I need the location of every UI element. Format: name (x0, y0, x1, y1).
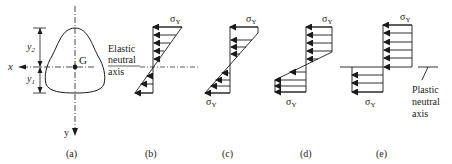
stress-label-b-top: σY (170, 13, 180, 26)
plastic-na-leader (422, 67, 428, 80)
dim-arrow-up2-icon (38, 67, 43, 73)
centroid-dot (73, 65, 78, 70)
plastic-na-line3: axis (412, 108, 428, 119)
caption-d: (d) (300, 148, 312, 160)
panel-b-elastic-stress (135, 27, 198, 93)
stress-label-c-bottom: σY (206, 96, 216, 109)
y-axis-label: y (64, 127, 69, 138)
x-axis-arrow-icon (18, 65, 26, 70)
plastic-na-line1: Plastic (412, 84, 439, 95)
panel-d-elastic-plastic (275, 27, 352, 92)
stress-distribution-figure: y x G y2 y1 Elastic neutral axis (a) (0, 0, 452, 164)
plastic-na-line2: neutral (412, 96, 440, 107)
stress-label-d-top: σY (322, 13, 332, 26)
dim-lower-label: y1 (26, 73, 35, 86)
panel-c-first-yield (205, 27, 258, 93)
dim-upper-label: y2 (26, 41, 35, 54)
centroid-label: G (79, 54, 87, 66)
elastic-na-line3: axis (108, 66, 124, 77)
dim-arrow-down-icon (38, 61, 43, 67)
caption-b: (b) (145, 148, 157, 160)
panel-e-fully-plastic (352, 25, 438, 92)
stress-label-c-top: σY (246, 13, 256, 26)
stress-profile (135, 27, 182, 93)
caption-c: (c) (222, 148, 233, 160)
stress-profile (275, 52, 332, 80)
panel-a-cross-section: y x G y2 y1 Elastic neutral axis (a) (7, 6, 140, 160)
stress-label-e-top: σY (400, 11, 410, 24)
stress-label-e-bottom: σY (365, 96, 375, 109)
dim-arrow-up-icon (38, 28, 43, 34)
elastic-na-line2: neutral (108, 54, 136, 65)
y-axis-arrow-icon (72, 128, 78, 136)
stress-profile (205, 33, 258, 93)
stress-label-d-bottom: σY (286, 96, 296, 109)
dim-arrow-down2-icon (38, 87, 43, 93)
caption-e: (e) (376, 148, 387, 160)
elastic-na-line1: Elastic (108, 43, 136, 54)
x-axis-label: x (7, 60, 13, 72)
caption-a: (a) (66, 148, 77, 160)
